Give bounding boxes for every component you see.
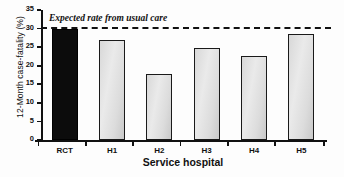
bar-h2 [146, 74, 172, 140]
x-tick-end [323, 141, 325, 146]
y-tick-35: 35 [37, 9, 41, 11]
y-tick-15: 15 [37, 83, 41, 85]
y-tick-5: 5 [37, 121, 41, 123]
y-axis-title: 12-Month case-fatality (%) [15, 2, 25, 132]
bar-h5 [288, 34, 314, 140]
bar-h4 [241, 56, 267, 140]
y-tick-label-30: 30 [26, 23, 34, 32]
bar-chart-figure: 12-Month case-fatality (%) 0510152025303… [0, 0, 344, 177]
plot-area: 05101520253035 RCTH1H2H3H4H5 Expected ra… [41, 10, 325, 140]
x-axis-label-h1: H1 [88, 146, 135, 155]
x-axis-label-h4: H4 [230, 146, 277, 155]
x-tick-h4 [227, 141, 229, 146]
y-tick-20: 20 [37, 65, 41, 67]
y-axis-line [41, 10, 43, 141]
y-tick-25: 25 [37, 46, 41, 48]
x-axis-label-h2: H2 [136, 146, 183, 155]
y-tick-10: 10 [37, 102, 41, 104]
y-tick-label-20: 20 [26, 60, 34, 69]
x-axis-label-rct: RCT [41, 146, 88, 155]
x-tick-h5 [274, 141, 276, 146]
bar-h3 [194, 48, 220, 140]
x-tick-h2 [132, 141, 134, 146]
y-tick-label-5: 5 [30, 116, 34, 125]
y-tick-label-0: 0 [30, 134, 34, 143]
expected-rate-label: Expected rate from usual care [49, 13, 167, 23]
x-axis-label-h3: H3 [183, 146, 230, 155]
y-tick-label-10: 10 [26, 97, 34, 106]
expected-rate-line [41, 27, 331, 29]
y-tick-label-15: 15 [26, 78, 34, 87]
x-tick-h3 [180, 141, 182, 146]
y-tick-label-25: 25 [26, 41, 34, 50]
x-tick-rct [38, 141, 40, 146]
x-tick-h1 [85, 141, 87, 146]
y-tick-label-35: 35 [26, 4, 34, 13]
bar-h1 [99, 40, 125, 140]
x-axis-title: Service hospital [41, 156, 325, 168]
x-axis-label-h5: H5 [278, 146, 325, 155]
bar-rct [52, 29, 78, 140]
